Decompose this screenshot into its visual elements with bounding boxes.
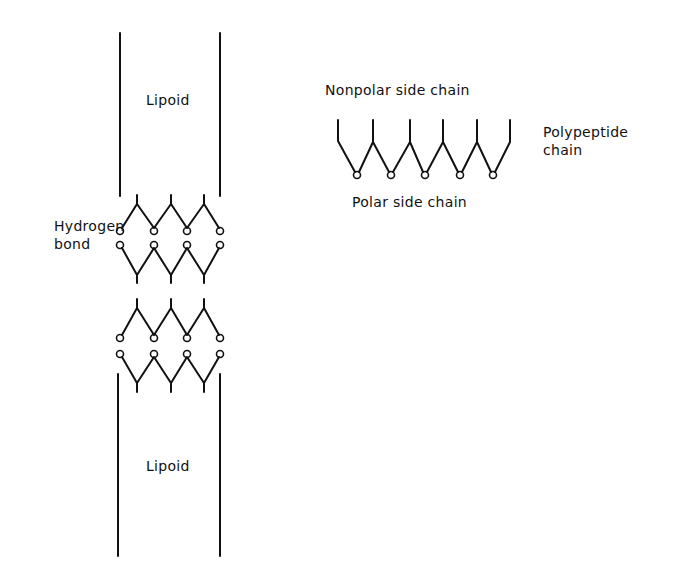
lipoid-bottom-label: Lipoid [146,458,190,475]
polypeptide-chain-label-line2: chain [543,142,582,159]
lipoid-top-label: Lipoid [146,92,190,109]
polypeptide-chain-1 [117,195,224,235]
legend-polypeptide-chain [338,120,510,179]
polypeptide-chain-2 [117,242,224,284]
hydrogen-bond-label-line1: Hydrogen [54,218,125,235]
polypeptide-chain-3 [117,299,224,342]
lipoid-top-layer [120,33,220,196]
hydrogen-bond-label-line2: bond [54,236,90,253]
nonpolar-side-chain-label: Nonpolar side chain [325,82,470,99]
polypeptide-chain-4 [117,351,224,393]
polar-side-chain-label: Polar side chain [352,194,467,211]
polypeptide-chain-label-line1: Polypeptide [543,124,628,141]
